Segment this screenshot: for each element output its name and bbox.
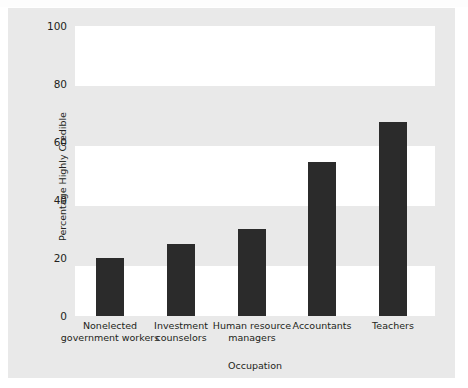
y-axis-label-host: Percentage Highly Credible [32, 26, 46, 316]
x-tick-line-2: managers [197, 332, 307, 344]
x-axis-ticks: Nonelected government workers Investment… [75, 320, 435, 360]
x-tick-line-1: Teachers [338, 320, 448, 332]
bar-teachers[interactable] [379, 122, 407, 316]
top-edge-artifact [0, 0, 468, 7]
x-axis-label: Occupation [75, 360, 435, 371]
bar-human-resource-managers[interactable] [238, 229, 266, 316]
y-axis-label: Percentage Highly Credible [57, 77, 68, 277]
bar-nonelected-government-workers[interactable] [96, 258, 124, 316]
x-tick-teachers: Teachers [338, 320, 448, 332]
plot-area [75, 26, 435, 316]
bar-accountants[interactable] [308, 162, 336, 316]
bar-investment-counselors[interactable] [167, 244, 195, 317]
chart-figure: 100 80 60 40 20 0 Percentage Highly Cred… [8, 8, 455, 378]
band-100-80 [75, 26, 435, 86]
